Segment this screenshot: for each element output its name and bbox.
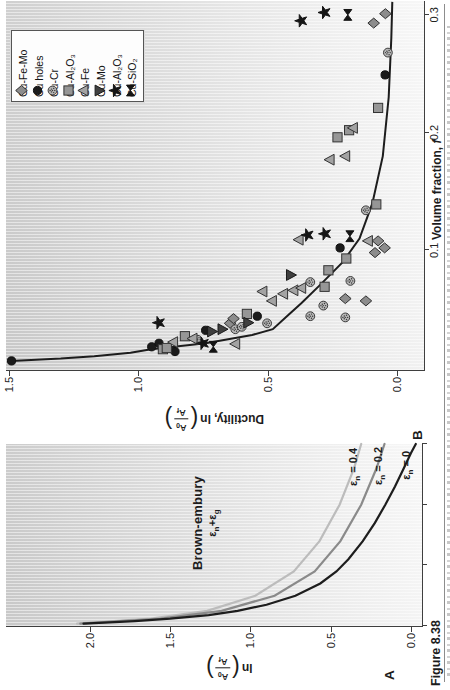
legend-item: Cu-Al₂O₃ xyxy=(109,31,125,101)
data-point-bowtie xyxy=(346,231,354,242)
figure-page: Brown-embury εn+εg εn = 0.4 εn = 0.2 εn … xyxy=(0,0,450,690)
data-point-star xyxy=(295,15,307,28)
data-point-triangle-up xyxy=(340,151,350,162)
y-tick xyxy=(90,627,91,632)
data-point-diamond xyxy=(380,9,392,19)
data-point-star xyxy=(152,316,164,329)
data-point-bowtie xyxy=(209,341,217,352)
legend-glyph xyxy=(108,84,120,97)
clipped-caption-text xyxy=(447,26,450,676)
y-tick-label: 1.5 xyxy=(3,377,15,401)
data-point-triangle-up xyxy=(288,285,298,296)
data-point-triangle-up xyxy=(324,154,334,165)
close-paren: ) xyxy=(165,406,173,431)
data-point-circle-dot xyxy=(306,278,315,287)
legend-box: Cu-Fe-MoCu holesCu-CrCu-Al₂O₃Cu-FeCu-MoC… xyxy=(11,30,144,102)
curve-label-en-0: εn = 0 xyxy=(400,451,415,480)
curve-label-en-02: εn = 0.2 xyxy=(372,447,387,485)
data-point-square xyxy=(372,200,381,209)
y-tick xyxy=(268,371,269,376)
data-point-circle-dot xyxy=(263,319,272,328)
legend-marker-triangle-up-icon xyxy=(77,84,90,97)
y-tick xyxy=(331,627,332,632)
page-rule xyxy=(444,4,445,682)
data-point-triangle-up xyxy=(230,339,240,350)
data-point-triangle-up xyxy=(293,234,303,245)
data-point-square xyxy=(374,103,383,112)
open-paren: ( xyxy=(232,655,240,680)
legend-glyph xyxy=(48,86,57,95)
legend-glyph xyxy=(33,86,41,94)
data-point-star xyxy=(319,228,331,241)
y-tick-label: 2.0 xyxy=(84,633,96,657)
legend-item: Cu-Al₂O₃ xyxy=(62,31,78,101)
panel-a-letter: A xyxy=(382,670,397,680)
data-point-circle-dot xyxy=(341,313,350,322)
legend-item: Cu-Fe xyxy=(77,31,93,101)
y-tick xyxy=(250,627,251,632)
x-tick-label: 0.3 xyxy=(428,2,440,28)
panel-b-xlabel: Volume fraction, f xyxy=(430,140,444,240)
data-point-triangle-up xyxy=(266,296,276,307)
x-tick-label: 0.1 xyxy=(428,237,440,263)
data-point-square xyxy=(342,254,351,263)
data-point-circle-dot xyxy=(384,48,393,57)
data-point-circle-dot xyxy=(362,206,371,215)
data-point-triangle-down xyxy=(287,270,297,281)
legend-item: Cu-SiO₂ xyxy=(124,31,140,101)
legend-marker-triangle-down-icon xyxy=(93,84,106,97)
legend-item: Cu-Cr xyxy=(46,31,62,101)
y-tick-label: 0.5 xyxy=(325,633,337,657)
legend-marker-square-icon xyxy=(62,84,75,97)
data-point-diamond xyxy=(368,18,380,28)
y-tick-label: 0.5 xyxy=(262,377,274,401)
panel-a-subtitle: εn+εg xyxy=(206,458,221,588)
panel-b-ylabel: Ductility, ln ( A0 Af ) xyxy=(124,405,304,434)
data-point-triangle-up xyxy=(362,236,372,247)
data-point-square xyxy=(320,282,329,291)
data-point-circle-dot xyxy=(346,277,355,286)
y-tick-label: 1.0 xyxy=(132,377,144,401)
data-point-square xyxy=(324,266,333,275)
data-point-circle-dot xyxy=(319,301,328,310)
legend-marker-circle-dot-icon xyxy=(46,84,59,97)
data-point-square xyxy=(333,133,342,142)
figure-number-label: Figure 8.38 xyxy=(429,620,443,686)
data-point-circle xyxy=(7,357,15,365)
y-tick-label: 0.0 xyxy=(391,377,403,401)
y-tick xyxy=(138,371,139,376)
panel-a-title: Brown-embury εn+εg xyxy=(190,458,221,588)
data-point-circle xyxy=(381,71,389,79)
panel-a-ylabel: ln ( A0 Af ) xyxy=(159,654,299,683)
y-tick xyxy=(411,627,412,632)
data-point-diamond xyxy=(340,294,352,304)
data-point-circle-dot xyxy=(306,312,315,321)
data-point-diamond xyxy=(360,296,372,306)
legend-glyph xyxy=(127,85,135,96)
data-point-square xyxy=(162,343,171,352)
x-tick xyxy=(422,443,427,444)
close-paren: ) xyxy=(206,655,214,680)
legend-marker-diamond-icon xyxy=(15,84,28,97)
y-tick xyxy=(397,371,398,376)
legend-glyph xyxy=(16,86,28,96)
y-tick-label: 0.0 xyxy=(405,633,417,657)
a0-af-fraction: A0 Af xyxy=(216,654,230,683)
legend-item: Cu holes xyxy=(31,31,47,101)
data-point-circle xyxy=(253,312,261,320)
legend-marker-circle-icon xyxy=(31,84,44,97)
legend-glyph xyxy=(95,85,105,96)
brown-embury-curve-1 xyxy=(80,444,384,624)
a0-af-fraction: A0 Af xyxy=(174,405,188,434)
data-point-triangle-up xyxy=(278,288,288,299)
data-point-diamond xyxy=(369,248,381,258)
panel-b-letter: B xyxy=(410,430,425,440)
rotated-figure: Brown-embury εn+εg εn = 0.4 εn = 0.2 εn … xyxy=(0,0,450,690)
x-tick xyxy=(422,564,427,565)
legend-marker-star-icon xyxy=(109,84,122,97)
x-tick xyxy=(422,504,427,505)
panel-b-plot: Cu-Fe-MoCu holesCu-CrCu-Al₂O₃Cu-FeCu-MoC… xyxy=(6,1,425,371)
curve-label-en-04: εn = 0.4 xyxy=(347,448,362,486)
legend-glyph xyxy=(64,86,73,95)
data-point-circle xyxy=(336,244,344,252)
